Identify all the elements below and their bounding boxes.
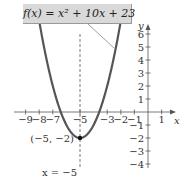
function-label: f(x) = x² + 10x + 23 xyxy=(23,4,132,24)
x-tick-label: −9 xyxy=(18,114,33,125)
x-axis-arrow-icon xyxy=(170,110,176,115)
x-tick-label: −8 xyxy=(32,114,47,125)
y-tick-label: 1 xyxy=(138,94,144,105)
y-tick-label: −4 xyxy=(129,159,144,170)
x-tick-label: 1 xyxy=(158,114,164,125)
y-tick-label: 2 xyxy=(138,81,144,92)
axis-of-symmetry-label: x = −5 xyxy=(42,167,77,178)
y-tick-label: −2 xyxy=(129,133,144,144)
y-tick-label: 4 xyxy=(138,55,144,66)
vertex-label: (−5, −2) xyxy=(30,133,74,144)
y-tick-label: −1 xyxy=(129,120,144,131)
y-tick-label: 3 xyxy=(138,68,144,79)
y-tick-label: 5 xyxy=(138,42,144,53)
x-axis-label: x xyxy=(174,115,180,126)
label-leader-line xyxy=(88,24,114,48)
y-axis-arrow-icon xyxy=(146,24,151,30)
y-axis-label: y xyxy=(137,20,144,31)
y-ticks: −4−3−2−1123456 xyxy=(129,29,150,170)
vertex-point xyxy=(78,136,82,140)
x-tick-label: −2 xyxy=(113,114,128,125)
y-tick-label: −3 xyxy=(129,146,144,157)
x-tick-label: −7 xyxy=(45,114,60,125)
parabola-chart: −9−8−7−5−3−2−11 −4−3−2−1123456 (−5, −2) … xyxy=(0,0,185,191)
x-tick-label: −3 xyxy=(100,114,115,125)
